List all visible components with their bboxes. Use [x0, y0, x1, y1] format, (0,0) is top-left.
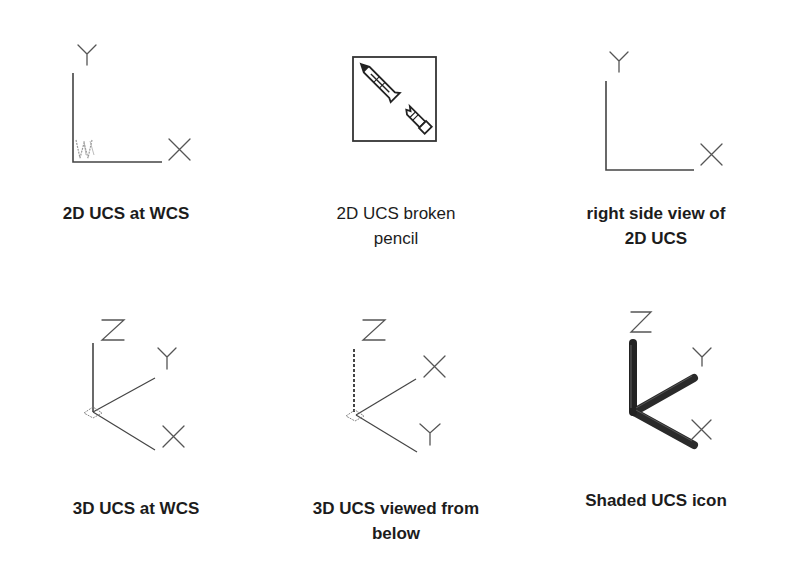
- l-axes-icon: [606, 81, 694, 170]
- caption-line: 2D UCS at WCS: [16, 201, 236, 226]
- z-axis-label-icon: [102, 320, 124, 340]
- caption-shaded-ucs-icon: Shaded UCS icon: [546, 488, 766, 513]
- x-axis-line: [93, 412, 155, 450]
- caption-line: Shaded UCS icon: [546, 488, 766, 513]
- caption-3d-ucs-at-wcs: 3D UCS at WCS: [26, 496, 246, 521]
- z-axis-label-icon: [631, 312, 651, 332]
- caption-line: pencil: [286, 226, 506, 251]
- caption-2d-ucs-broken-pencil: 2D UCS broken pencil: [286, 201, 506, 251]
- ucs-2d-right-side-icon: [606, 52, 722, 170]
- caption-2d-ucs-at-wcs: 2D UCS at WCS: [16, 201, 236, 226]
- y-axis-label-icon: [693, 348, 711, 366]
- caption-3d-ucs-viewed-from-below: 3D UCS viewed from below: [286, 496, 506, 546]
- caption-line: 2D UCS: [546, 226, 766, 251]
- caption-line: below: [286, 521, 506, 546]
- ucs-shaded-icon: [631, 312, 711, 445]
- x-axis-label-icon: [692, 420, 711, 439]
- caption-right-side-view: right side view of 2D UCS: [546, 201, 766, 251]
- ucs-2d-wcs-icon: [73, 45, 190, 162]
- w-marker-icon: [76, 140, 94, 158]
- y-axis-label-icon: [78, 45, 96, 65]
- ucs-3d-wcs-icon: [84, 320, 184, 450]
- x-axis-label-icon: [163, 426, 184, 447]
- caption-line: 2D UCS broken: [286, 201, 506, 226]
- y-axis-label-icon: [610, 52, 628, 72]
- x-axis-rod: [634, 412, 694, 445]
- caption-line: 3D UCS at WCS: [26, 496, 246, 521]
- y-axis-label-icon: [158, 348, 176, 369]
- x-axis-label-icon: [169, 139, 190, 160]
- y-axis-rod: [634, 378, 694, 412]
- ucs-icon-figure: 2D UCS at WCS 2D UCS broken pencil right…: [0, 0, 793, 576]
- x-axis-label-icon: [701, 144, 722, 165]
- ucs-3d-below-icon: [346, 320, 445, 452]
- caption-line: 3D UCS viewed from: [286, 496, 506, 521]
- caption-line: right side view of: [546, 201, 766, 226]
- broken-pencil-icon: [353, 57, 436, 141]
- x-axis-label-icon: [424, 356, 445, 377]
- y-axis-line: [93, 378, 155, 412]
- y-axis-line: [356, 415, 417, 452]
- y-axis-label-icon: [420, 424, 440, 445]
- z-axis-label-icon: [363, 320, 385, 340]
- l-axes-icon: [73, 73, 162, 162]
- x-axis-line: [356, 379, 416, 415]
